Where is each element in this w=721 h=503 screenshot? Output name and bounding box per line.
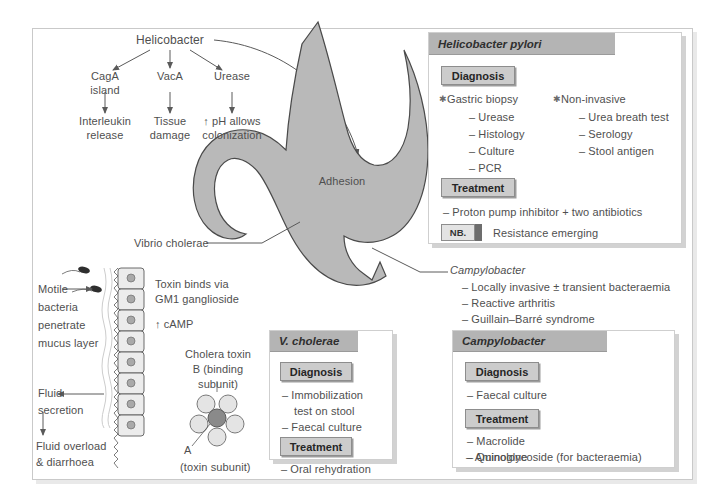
campylobacter-label: Campylobacter — [450, 264, 525, 277]
toxin-title-0: Cholera toxin — [185, 348, 251, 361]
campylobacter-tx-item0: – Macrolide — [467, 435, 525, 448]
motile-line-2: penetrate — [38, 319, 85, 332]
motile-line-1: bacteria — [38, 301, 78, 314]
fluid-overload-0: Fluid overload — [36, 440, 107, 453]
vcholerae-dx-item2: – Faecal culture — [282, 421, 362, 434]
vibrio-cholerae-label: Vibrio cholerae — [134, 237, 209, 250]
toxin-title-1: B (binding — [193, 363, 244, 376]
fluid-overload-1: & diarrhoea — [36, 456, 94, 469]
hpylori-dx-col1-bullet: Non-invasive — [561, 93, 626, 106]
adhesion-label: Adhesion — [319, 175, 366, 188]
campy-feature-0: – Locally invasive ± transient bacteraem… — [462, 281, 670, 294]
hpylori-dx-col0-item3: – PCR — [469, 162, 502, 175]
nb-badge: NB. — [441, 224, 475, 241]
hpylori-treatment-pill[interactable]: Treatment — [441, 178, 515, 197]
effect-tissue2: damage — [150, 129, 190, 142]
helicobacter-root-label: Helicobacter — [136, 34, 204, 47]
factor-caga-label2: island — [90, 84, 119, 97]
campylobacter-diagnosis-pill[interactable]: Diagnosis — [465, 362, 539, 381]
bullet-icon: ✱ — [553, 94, 561, 104]
vcholerae-dx-item0: – Immobilization — [282, 389, 363, 402]
subunit-a-sub: (toxin subunit) — [180, 461, 251, 474]
fluid-secretion-0: Fluid — [38, 387, 62, 400]
hpylori-dx-col0-item0: – Urease — [469, 111, 514, 124]
campy-feature-1: – Reactive arthritis — [462, 297, 555, 310]
hpylori-dx-col1-item0: – Urea breath test — [579, 111, 669, 124]
effect-interleukin2: release — [87, 129, 124, 142]
hpylori-note-text: Resistance emerging — [493, 227, 598, 240]
hpylori-dx-col1-item2: – Stool antigen — [579, 145, 654, 158]
effect-interleukin: Interleukin — [79, 115, 131, 128]
epithelial-cell-column — [102, 268, 144, 468]
toxin-binds-line-0: Toxin binds via — [155, 278, 229, 291]
vcholerae-box-title: V. cholerae — [279, 335, 339, 347]
vcholerae-tx-item0: – Oral rehydration — [281, 463, 371, 476]
campylobacter-box: Campylobacter Diagnosis – Faecal culture… — [452, 330, 675, 468]
campy-feature-2: – Guillain–Barré syndrome — [462, 313, 595, 326]
hpylori-dx-col0-item2: – Culture — [469, 145, 515, 158]
effect-ph: ↑ pH allows — [203, 115, 260, 128]
effect-ph2: colonization — [202, 129, 261, 142]
hpylori-box-header: Helicobacter pylori — [429, 33, 615, 55]
subunit-a-label: A — [184, 444, 191, 457]
bullet-icon: ✱ — [439, 94, 447, 104]
vcholerae-dx-item1: test on stool — [294, 405, 355, 418]
hpylori-box-title: Helicobacter pylori — [438, 38, 542, 50]
campylobacter-treatment-pill[interactable]: Treatment — [465, 409, 539, 428]
factor-urease-label: Urease — [214, 70, 250, 83]
vcholerae-treatment-pill[interactable]: Treatment — [280, 437, 352, 456]
hpylori-dx-col0-item1: – Histology — [469, 128, 525, 141]
vcholerae-box-header: V. cholerae — [270, 331, 358, 352]
camp-label: ↑ cAMP — [155, 318, 194, 331]
stomach-illustration — [193, 22, 428, 285]
motile-line-3: mucus layer — [38, 337, 98, 350]
hpylori-diagnosis-pill[interactable]: Diagnosis — [441, 66, 515, 85]
hpylori-tx-item0: – Proton pump inhibitor + two antibiotic… — [443, 206, 642, 219]
motile-line-0: Motile — [38, 283, 68, 296]
hpylori-dx-col0-bullet: Gastric biopsy — [447, 93, 518, 106]
campylobacter-box-header: Campylobacter — [453, 331, 607, 352]
vcholerae-diagnosis-pill[interactable]: Diagnosis — [280, 362, 352, 381]
hpylori-box: Helicobacter pylori Diagnosis ✱ Gastric … — [428, 32, 682, 244]
nb-badge-tab — [475, 224, 482, 241]
factor-vaca-label: VacA — [157, 70, 183, 83]
effect-tissue: Tissue — [154, 115, 187, 128]
fluid-secretion-1: secretion — [38, 404, 84, 417]
campylobacter-tx-item2: – Aminoglycoside (for bacteraemia) — [466, 451, 642, 464]
campylobacter-box-title: Campylobacter — [462, 335, 545, 347]
toxin-title-2: subunit) — [198, 378, 238, 391]
campylobacter-dx-item0: – Faecal culture — [467, 389, 547, 402]
toxin-binds-line-1: GM1 ganglioside — [155, 293, 239, 306]
vcholerae-box: V. cholerae Diagnosis – Immobilization t… — [269, 330, 393, 460]
hpylori-dx-col1-item1: – Serology — [579, 128, 633, 141]
factor-caga-label: CagA — [91, 70, 119, 83]
diagram-canvas: Helicobacter CagA island Interleukin rel… — [0, 0, 721, 503]
